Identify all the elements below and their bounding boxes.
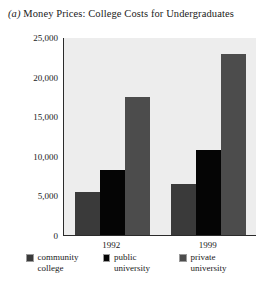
title-text: Money Prices: College Costs for Undergra…	[23, 8, 234, 19]
x-tick-label: 1999	[199, 240, 217, 250]
y-tick-label: 15,000	[0, 113, 58, 122]
legend-label: private university	[191, 252, 247, 274]
panel-letter: (a)	[8, 8, 21, 19]
legend-swatch-icon	[179, 254, 187, 262]
legend-swatch-icon	[103, 254, 111, 262]
bar	[221, 54, 246, 235]
legend-item: community college	[26, 252, 94, 274]
bars-layer	[64, 38, 256, 235]
legend-label: public university	[114, 252, 170, 274]
bar	[100, 170, 125, 235]
bar-chart: 05,00010,00015,00020,00025,000 19921999	[0, 26, 272, 238]
x-tick-label: 1992	[102, 240, 120, 250]
bar	[125, 97, 150, 235]
bar	[75, 192, 100, 235]
plot-area	[63, 38, 256, 236]
y-tick-label: 25,000	[0, 34, 58, 43]
page-title: (a) Money Prices: College Costs for Unde…	[8, 8, 266, 20]
chart-legend: community collegepublic universityprivat…	[26, 252, 258, 274]
legend-swatch-icon	[26, 254, 34, 262]
legend-item: public university	[103, 252, 171, 274]
y-tick-label: 20,000	[0, 73, 58, 82]
bar	[171, 184, 196, 235]
bar	[196, 150, 221, 235]
y-tick-label: 0	[0, 232, 58, 241]
legend-label: community college	[38, 252, 94, 274]
y-tick-label: 5,000	[0, 192, 58, 201]
y-axis: 05,00010,00015,00020,00025,000	[0, 38, 58, 236]
y-tick-label: 10,000	[0, 152, 58, 161]
legend-item: private university	[179, 252, 247, 274]
